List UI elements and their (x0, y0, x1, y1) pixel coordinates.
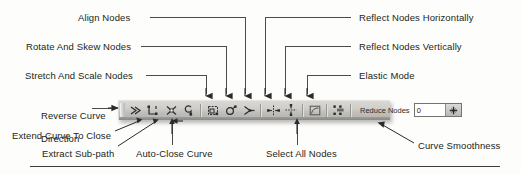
reverse-curve-direction-icon (129, 105, 142, 116)
auto-close-curve-icon (184, 105, 195, 116)
toolbar-button-extract-sub-path[interactable] (162, 102, 180, 118)
toolbar-separator (302, 104, 304, 117)
leader-align-nodes-horizontal (150, 17, 245, 18)
figure-canvas: Align Nodes Rotate And Skew Nodes Stretc… (0, 0, 521, 174)
pointer-extract-sub-path (118, 118, 159, 146)
callout-label-reflect-nodes-vertically: Reflect Nodes Vertically (359, 41, 462, 53)
toolbar-separator (350, 104, 352, 117)
toolbar-button-rotate-and-skew-nodes[interactable] (222, 102, 240, 118)
node-edit-toolbar: Reduce Nodes 0 (118, 100, 390, 120)
reduce-nodes-value[interactable]: 0 (415, 104, 445, 116)
callout-label-reflect-nodes-horizontally: Reflect Nodes Horizontally (359, 12, 474, 24)
callout-label-elastic-mode: Elastic Mode (359, 70, 415, 82)
callout-label-curve-smoothness: Curve Smoothness (418, 140, 500, 152)
leader-align-nodes-vertical (245, 17, 246, 94)
callout-label-reverse-curve-direction-line1: Reverse Curve (41, 110, 106, 121)
pointer-curve-smoothness (377, 122, 414, 143)
rotate-and-skew-nodes-icon (225, 105, 237, 116)
figure-bottom-rule (30, 166, 500, 167)
leader-rotate-and-skew-nodes-vertical (226, 46, 227, 94)
callout-label-stretch-and-scale-nodes: Stretch And Scale Nodes (25, 70, 133, 82)
select-all-nodes-icon (333, 105, 345, 116)
leader-reflect-nodes-vertically-horizontal (285, 46, 351, 47)
toolbar-button-auto-close-curve[interactable] (180, 102, 198, 118)
callout-label-rotate-and-skew-nodes: Rotate And Skew Nodes (26, 41, 131, 53)
toolbar-button-reflect-nodes-vertically[interactable] (282, 102, 300, 118)
toolbar-button-extend-curve-to-close[interactable] (144, 102, 162, 118)
toolbar-separator (200, 104, 202, 117)
pointer-extend-curve-to-close (115, 118, 143, 131)
toolbar-button-elastic-mode[interactable] (306, 102, 324, 118)
leader-reflect-nodes-vertically-vertical (285, 46, 286, 94)
extend-curve-to-close-icon (147, 105, 159, 116)
extract-sub-path-icon (165, 105, 178, 116)
toolbar-drag-grip[interactable] (120, 103, 125, 117)
callout-label-reverse-curve-direction: Reverse Curve Direction (30, 98, 106, 156)
leader-elastic-mode-vertical (307, 75, 308, 94)
toolbar-button-stretch-and-scale-nodes[interactable] (204, 102, 222, 118)
leader-select-all-nodes-vertical (297, 124, 298, 145)
toolbar-button-reverse-curve-direction[interactable] (126, 102, 144, 118)
leader-reverse-curve-direction-horizontal (92, 108, 115, 109)
elastic-mode-icon (309, 105, 321, 116)
callout-label-extract-sub-path: Extract Sub-path (42, 148, 114, 160)
stretch-and-scale-nodes-icon (207, 105, 219, 116)
callout-label-select-all-nodes: Select All Nodes (266, 148, 337, 160)
toolbar-separator (260, 104, 262, 117)
leader-auto-close-curve-vertical (172, 124, 173, 145)
toolbar-button-reflect-nodes-horizontally[interactable] (264, 102, 282, 118)
toolbar-button-align-nodes[interactable] (240, 102, 258, 118)
leader-reflect-nodes-horizontally-vertical (265, 17, 266, 94)
leader-stretch-and-scale-nodes-horizontal (146, 75, 206, 76)
reduce-nodes-label: Reduce Nodes (360, 106, 410, 115)
leader-stretch-and-scale-nodes-vertical (206, 75, 207, 94)
toolbar-button-select-all-nodes[interactable] (330, 102, 348, 118)
reflect-nodes-vertically-icon (285, 104, 297, 116)
reduce-nodes-spinner[interactable]: 0 (414, 103, 462, 117)
leader-rotate-and-skew-nodes-horizontal (141, 46, 226, 47)
curve-smoothness-spinner-icon (449, 101, 458, 119)
leader-reflect-nodes-horizontally-horizontal (265, 17, 351, 18)
toolbar-separator (326, 104, 328, 117)
leader-elastic-mode-horizontal (307, 75, 351, 76)
align-nodes-icon (243, 105, 256, 116)
curve-smoothness-button[interactable] (445, 104, 461, 116)
callout-label-auto-close-curve: Auto-Close Curve (136, 148, 213, 160)
callout-label-extend-curve-to-close: Extend Curve To Close (12, 130, 111, 142)
callout-label-align-nodes: Align Nodes (78, 12, 130, 24)
reflect-nodes-horizontally-icon (267, 105, 280, 116)
